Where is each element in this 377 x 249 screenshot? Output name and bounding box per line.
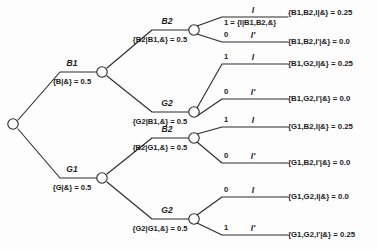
node-g1 — [97, 173, 107, 183]
leaf-label-7: {G1,G2,I|&} = 0.0 — [288, 193, 349, 201]
branch-label-b1: B1 — [67, 59, 78, 68]
edge-root-to-g1 — [18, 129, 102, 178]
edge-g1-to-g2 — [107, 182, 192, 219]
branch-value-inot-1: 0 — [224, 31, 228, 39]
branch-value-inot-4: 1 — [224, 224, 228, 232]
edge-group — [18, 17, 288, 235]
branch-prob-g1-g2: {G2|G1,&} = 0.5 — [132, 225, 187, 233]
branch-label-g1-g2: G2 — [161, 206, 172, 215]
edge-b2l-to-inot — [197, 142, 288, 163]
edge-b2u-to-inot — [197, 34, 288, 42]
branch-prob-g1: {G|&} = 0.5 — [53, 184, 92, 192]
probability-tree-diagram: B1 {B|&} = 0.5 G1 {G|&} = 0.5 B2 {B2|B1,… — [0, 0, 377, 249]
edge-g2u-to-inot — [197, 99, 288, 116]
branch-value-inot-2: 0 — [224, 88, 228, 96]
branch-label-i-3: I — [252, 116, 254, 125]
leaf-label-1: {B1,B2,I|&} = 0.25 — [288, 9, 352, 17]
leaf-label-5: {G1,B2,I|&} = 0.25 — [288, 123, 353, 131]
branch-label-b1-g2: G2 — [161, 99, 172, 108]
branch-prob-b1-g2: {G2|B1,&} = 0.5 — [133, 118, 188, 126]
branch-label-inot-3: I' — [251, 152, 255, 161]
node-g1-g2 — [189, 214, 199, 224]
edge-g2u-to-i — [197, 64, 288, 108]
edge-b1-to-g2 — [107, 76, 192, 112]
branch-label-i-4: I — [252, 186, 254, 195]
branch-prob-b1-b2: {B2|B1,&} = 0.5 — [133, 36, 187, 44]
branch-prob-b1: {B|&} = 0.5 — [53, 78, 91, 86]
branch-label-b1-b2: B2 — [162, 17, 173, 26]
branch-value-i-1: 1 = {I|B1,B2,&} — [224, 19, 276, 27]
branch-value-inot-3: 0 — [224, 152, 228, 160]
leaf-label-8: {G1,G2,I'|&} = 0.25 — [288, 231, 355, 239]
node-g1-b2 — [189, 133, 199, 143]
branch-value-i-2: 1 — [224, 53, 228, 61]
edge-g2l-to-i — [197, 197, 288, 215]
branch-value-i-3: 1 — [224, 116, 228, 124]
branch-label-g1-b2: B2 — [162, 125, 173, 134]
branch-value-i-4: 0 — [224, 186, 228, 194]
root-node — [8, 119, 18, 129]
node-b1-g2 — [189, 107, 199, 117]
branch-label-i-2: I — [252, 53, 254, 62]
leaf-label-2: {B1,B2,I'|&} = 0.0 — [288, 38, 350, 46]
branch-label-inot-2: I' — [251, 88, 255, 97]
branch-label-i-1: I — [252, 6, 254, 15]
leaf-label-6: {G1,B2,I'|&} = 0.0 — [288, 159, 350, 167]
node-b1-b2 — [189, 25, 199, 35]
edge-b2l-to-i — [197, 127, 288, 134]
edge-g2l-to-inot — [197, 223, 288, 235]
node-b1 — [97, 67, 107, 77]
branch-prob-g1-b2: {B2|G1,&} = 0.5 — [133, 144, 188, 152]
branch-label-inot-1: I' — [251, 31, 255, 40]
branch-label-g1: G1 — [66, 165, 77, 174]
leaf-label-4: {B1,G2,I'|&} = 0.0 — [288, 95, 350, 103]
leaf-label-3: {B1,G2,I|&} = 0.25 — [288, 60, 353, 68]
branch-label-inot-4: I' — [251, 224, 255, 233]
